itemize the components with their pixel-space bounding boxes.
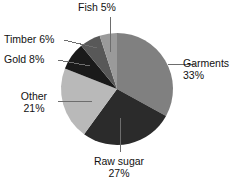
pie-label-timber: Timber 6% [4,34,54,46]
pie-label-garments: Garments 33% [183,58,229,81]
pie-chart: Fish 5% Timber 6% Gold 8% Other 21% Garm… [0,0,232,183]
pie-label-other-name: Other [12,91,56,103]
pie-label-garments-name: Garments [183,58,229,70]
pie-slices [61,33,173,145]
pie-label-fish-text: Fish 5% [78,2,116,14]
pie-label-raw-sugar-value: 27% [84,168,154,180]
pie-label-fish: Fish 5% [78,2,116,14]
pie-label-other-value: 21% [12,103,56,115]
pie-label-garments-value: 33% [183,70,229,82]
pie-label-raw-sugar-name: Raw sugar [84,156,154,168]
pie-label-timber-text: Timber 6% [4,34,54,46]
pie-label-other: Other 21% [12,91,56,114]
pie-label-raw-sugar: Raw sugar 27% [84,156,154,179]
pie-label-gold-text: Gold 8% [4,54,44,66]
pie-label-gold: Gold 8% [4,54,44,66]
